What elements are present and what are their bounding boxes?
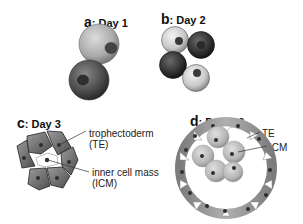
panel-a-cells [69, 24, 119, 100]
panel-b-cells [160, 27, 215, 92]
embryo-diagram [0, 0, 303, 224]
